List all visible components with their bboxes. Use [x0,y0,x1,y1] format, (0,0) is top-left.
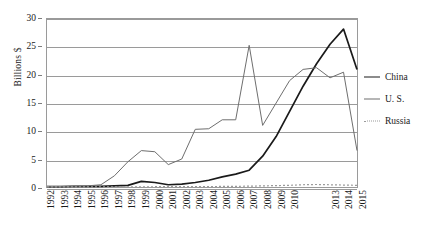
legend-item-russia: Russia [364,110,422,132]
y-tick-mark [38,75,42,76]
legend-label-us: U. S. [385,94,404,104]
x-tick-label: 1994 [73,190,83,209]
y-tick-label: 15 [27,98,37,108]
y-axis-ticks: 051015202530 [0,18,42,188]
series-line-china [47,29,357,187]
y-tick-mark [38,103,42,104]
x-tick-label: 2000 [155,190,165,209]
y-tick-label: 5 [31,155,36,165]
x-tick-label: 2010 [290,190,300,209]
x-tick-label: 1998 [127,190,137,209]
legend-item-us: U. S. [364,88,422,110]
y-tick-mark [38,160,42,161]
x-tick-label: 2009 [277,190,287,209]
y-tick-mark [38,131,42,132]
y-tick-label: 20 [27,70,37,80]
y-tick-mark [38,188,42,189]
x-axis-ticks: 1992199319941995199619971998199920002001… [46,190,358,233]
legend-label-russia: Russia [385,116,410,126]
x-tick-label: 1993 [60,190,70,209]
x-tick-label: 2003 [195,190,205,209]
line-chart-svg [47,19,357,187]
chart-legend: China U. S. Russia [364,66,422,132]
x-tick-label: 2002 [182,190,192,209]
y-tick-label: 25 [27,41,37,51]
x-tick-label: 2004 [209,190,219,209]
x-tick-label: 2013 [331,190,341,209]
plot-area [46,18,358,188]
y-tick-mark [38,46,42,47]
x-tick-label: 1995 [87,190,97,209]
x-tick-label: 2006 [236,190,246,209]
x-tick-label: 1992 [46,190,56,209]
line-swatch-china-icon [364,73,380,81]
x-tick-label: 2005 [222,190,232,209]
x-tick-label: 2014 [344,190,354,209]
line-swatch-us-icon [364,95,380,103]
x-tick-label: 1999 [141,190,151,209]
chart-figure: Billions $ 051015202530 1992199319941995… [0,0,422,233]
y-tick-mark [38,18,42,19]
x-tick-label: 1997 [114,190,124,209]
y-tick-label: 0 [31,183,36,193]
y-tick-label: 30 [27,13,37,23]
x-tick-label: 2007 [249,190,259,209]
legend-label-china: China [385,72,408,82]
y-tick-label: 10 [27,126,37,136]
x-tick-label: 2008 [263,190,273,209]
dotted-line-swatch-russia-icon [364,117,380,125]
legend-item-china: China [364,66,422,88]
series-lines [47,19,357,187]
x-tick-label: 1996 [100,190,110,209]
series-line-us [47,45,357,186]
x-tick-label: 2015 [358,190,368,209]
x-tick-label: 2001 [168,190,178,209]
